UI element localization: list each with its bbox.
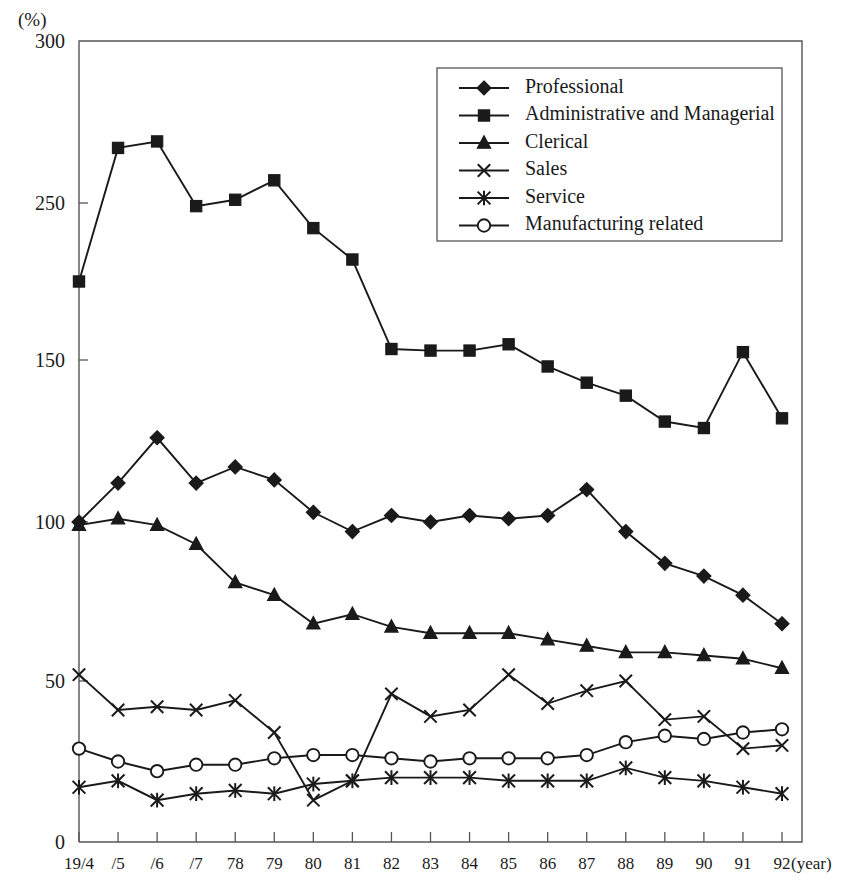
- data-point-circle: [478, 219, 490, 231]
- x-tick-label: 84: [461, 854, 479, 873]
- x-tick-label: /7: [190, 854, 204, 873]
- data-point-circle: [424, 755, 436, 767]
- x-axis-ticks: 19/4/5/6/7787980818283848586878889909192: [64, 832, 791, 873]
- line-chart: 050100150250300 19/4/5/6/778798081828384…: [0, 0, 852, 883]
- x-axis-year-label: (year): [791, 854, 832, 873]
- data-point-circle: [268, 752, 280, 764]
- data-point-triangle: [658, 645, 671, 657]
- data-point-square: [308, 223, 319, 234]
- data-point-circle: [541, 752, 553, 764]
- x-tick-label: /5: [111, 854, 124, 873]
- chart-legend: ProfessionalAdministrative and Manageria…: [437, 68, 782, 241]
- legend-label: Sales: [525, 157, 567, 179]
- data-point-diamond: [228, 460, 242, 474]
- y-axis-ticks: 050100150250300: [35, 30, 88, 853]
- x-tick-label: 83: [422, 854, 439, 873]
- y-tick-label: 50: [45, 670, 65, 692]
- x-tick-label: 82: [383, 854, 400, 873]
- y-tick-label: 250: [35, 192, 65, 214]
- data-point-circle: [737, 726, 749, 738]
- data-point-circle: [502, 752, 514, 764]
- data-point-x: [385, 688, 397, 700]
- data-point-square: [478, 110, 489, 121]
- data-point-diamond: [424, 515, 438, 529]
- data-point-diamond: [502, 512, 516, 526]
- data-point-x: [581, 684, 593, 696]
- legend-label: Clerical: [525, 130, 589, 152]
- data-point-square: [698, 422, 709, 433]
- data-point-asterisk: [619, 761, 632, 776]
- data-point-square: [581, 377, 592, 388]
- x-tick-label: 19/4: [64, 854, 95, 873]
- data-point-x: [307, 794, 319, 806]
- x-tick-label: 81: [344, 854, 361, 873]
- data-point-circle: [151, 765, 163, 777]
- data-point-diamond: [541, 509, 555, 523]
- y-tick-label: 300: [35, 30, 65, 52]
- series-manufacturing-related: [73, 723, 788, 777]
- data-point-square: [776, 413, 787, 424]
- x-tick-label: 78: [227, 854, 244, 873]
- data-point-x: [502, 668, 514, 680]
- data-point-triangle: [346, 607, 359, 619]
- y-axis-unit-label: (%): [18, 9, 46, 31]
- legend-label: Professional: [525, 75, 624, 97]
- data-point-circle: [307, 749, 319, 761]
- data-point-circle: [346, 749, 358, 761]
- x-tick-label: 91: [734, 854, 751, 873]
- x-tick-label: 89: [656, 854, 673, 873]
- data-point-diamond: [697, 569, 711, 583]
- x-tick-label: 86: [539, 854, 556, 873]
- legend-label: Manufacturing related: [525, 212, 703, 235]
- legend-label: Service: [525, 185, 585, 207]
- data-point-circle: [659, 730, 671, 742]
- x-tick-label: 85: [500, 854, 517, 873]
- y-tick-label: 100: [35, 511, 65, 533]
- data-point-square: [542, 361, 553, 372]
- data-point-square: [347, 254, 358, 265]
- series-clerical: [72, 512, 788, 674]
- data-point-circle: [190, 759, 202, 771]
- series-professional: [72, 431, 789, 631]
- data-point-circle: [73, 742, 85, 754]
- data-point-diamond: [775, 617, 789, 631]
- data-point-square: [112, 142, 123, 153]
- chart-container: 050100150250300 19/4/5/6/778798081828384…: [0, 0, 852, 883]
- data-point-diamond: [463, 509, 477, 523]
- data-point-triangle: [502, 626, 515, 638]
- y-tick-label: 0: [55, 831, 65, 853]
- data-point-circle: [112, 755, 124, 767]
- data-point-triangle: [111, 512, 124, 524]
- data-point-circle: [776, 723, 788, 735]
- x-tick-label: 92: [774, 854, 791, 873]
- data-point-diamond: [384, 509, 398, 523]
- data-point-square: [73, 276, 84, 287]
- data-point-square: [464, 345, 475, 356]
- data-point-square: [191, 201, 202, 212]
- x-tick-label: 90: [695, 854, 712, 873]
- data-point-square: [230, 194, 241, 205]
- data-point-square: [269, 175, 280, 186]
- data-point-square: [425, 345, 436, 356]
- data-point-x: [541, 697, 553, 709]
- data-point-circle: [385, 752, 397, 764]
- data-point-circle: [463, 752, 475, 764]
- data-point-triangle: [190, 537, 203, 549]
- data-point-circle: [581, 749, 593, 761]
- x-tick-label: /6: [150, 854, 163, 873]
- y-tick-label: 150: [35, 349, 65, 371]
- data-point-x: [620, 675, 632, 687]
- x-tick-label: 80: [305, 854, 322, 873]
- data-point-circle: [229, 759, 241, 771]
- data-point-x: [268, 726, 280, 738]
- data-point-triangle: [463, 626, 476, 638]
- data-point-diamond: [736, 588, 750, 602]
- x-tick-label: 87: [578, 854, 596, 873]
- data-point-square: [503, 339, 514, 350]
- data-point-circle: [698, 733, 710, 745]
- legend-label: Administrative and Managerial: [525, 102, 775, 125]
- data-point-diamond: [345, 525, 359, 539]
- data-point-square: [386, 343, 397, 354]
- x-tick-label: 79: [266, 854, 283, 873]
- data-point-circle: [620, 736, 632, 748]
